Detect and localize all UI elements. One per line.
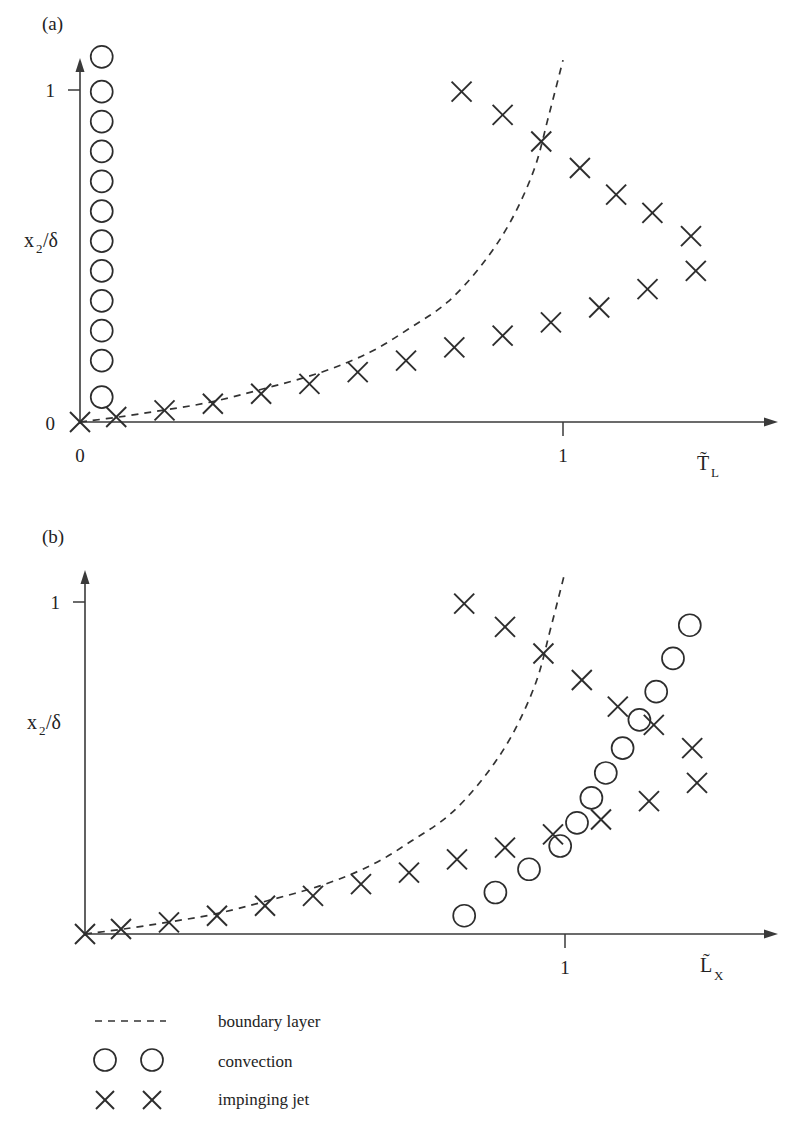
- data-point-cross: [207, 906, 227, 926]
- data-point-circle: [91, 46, 113, 68]
- legend-cross-icon-1: [96, 1091, 114, 1109]
- data-point-circle: [580, 787, 602, 809]
- panel-b-plot-area: [75, 572, 707, 944]
- legend-row-convection: convection: [94, 1049, 293, 1071]
- data-point-cross: [682, 738, 702, 758]
- data-point-cross: [642, 203, 662, 223]
- panel-b-y-axis-label-base: x: [27, 711, 37, 733]
- data-point-cross: [570, 158, 590, 178]
- data-point-cross: [396, 351, 416, 371]
- panel-b-convection-markers: [453, 614, 701, 927]
- panel-b-x-axis-label-base: L̃: [700, 953, 712, 976]
- panel-a-x-axis-label-sub: L: [711, 465, 719, 480]
- panel-a-y-axis-arrowhead: [76, 58, 85, 72]
- data-point-cross: [589, 297, 609, 317]
- legend-label-boundary-layer: boundary layer: [218, 1012, 321, 1031]
- panel-a-y-axis: 1 0 x 2 /δ: [24, 58, 85, 434]
- panel-b-y-tick-label-1: 1: [51, 592, 61, 613]
- panel-a-x-axis-arrowhead: [764, 418, 778, 427]
- panel-b-x-axis-label-sub: X: [714, 968, 724, 983]
- data-point-cross: [444, 337, 464, 357]
- data-point-circle: [612, 737, 634, 759]
- panel-a-y-tick-label-1: 1: [46, 80, 56, 101]
- data-point-circle: [484, 882, 506, 904]
- data-point-cross: [591, 809, 611, 829]
- data-point-circle: [549, 835, 571, 857]
- data-point-circle: [91, 111, 113, 133]
- data-point-cross: [638, 279, 658, 299]
- data-point-cross: [159, 912, 179, 932]
- legend: boundary layer convection impinging jet: [94, 1012, 321, 1109]
- panel-a: (a) 1 0 x 2 /δ 1 0: [24, 13, 778, 480]
- panel-a-convection-markers: [91, 46, 113, 408]
- data-point-circle: [566, 812, 588, 834]
- panel-a-x-axis-label-base: T̃: [697, 451, 709, 474]
- data-point-cross: [639, 791, 659, 811]
- figure-canvas: (a) 1 0 x 2 /δ 1 0: [0, 0, 794, 1129]
- panel-a-boundary-layer-curve: [80, 60, 563, 422]
- panel-b-x-axis: 1 L̃ X: [85, 930, 778, 984]
- panel-a-tag: (a): [42, 13, 63, 35]
- data-point-cross: [608, 697, 628, 717]
- data-point-cross: [251, 384, 271, 404]
- panel-a-y-axis-label: x 2 /δ: [24, 229, 58, 256]
- data-point-cross: [644, 715, 664, 735]
- legend-row-impinging-jet: impinging jet: [96, 1090, 309, 1109]
- legend-circle-icon-1: [94, 1049, 116, 1071]
- data-point-circle: [91, 230, 113, 252]
- data-point-cross: [572, 670, 592, 690]
- data-point-circle: [662, 647, 684, 669]
- data-point-circle: [91, 350, 113, 372]
- panel-b: (b) 1 x 2 /δ 1 L̃: [27, 526, 778, 983]
- data-point-cross: [541, 312, 561, 332]
- data-point-circle: [91, 140, 113, 162]
- panel-a-impinging-jet-lower-markers: [70, 261, 706, 432]
- panel-b-y-axis-label: x 2 /δ: [27, 711, 61, 738]
- data-point-cross: [203, 394, 223, 414]
- panel-b-boundary-layer-curve: [85, 572, 565, 934]
- panel-b-y-axis-label-sub: 2: [39, 723, 46, 738]
- panel-a-x-axis: 1 0 T̃ L: [75, 418, 778, 481]
- panel-b-x-axis-label: L̃ X: [700, 953, 724, 983]
- panel-b-tag: (b): [42, 526, 64, 548]
- panel-b-y-axis-label-tail: /δ: [46, 711, 61, 733]
- data-point-circle: [595, 762, 617, 784]
- panel-a-impinging-jet-upper-markers: [452, 82, 701, 246]
- panel-a-y-axis-label-tail: /δ: [43, 229, 58, 251]
- data-point-circle: [91, 320, 113, 342]
- data-point-cross: [454, 594, 474, 614]
- data-point-cross: [399, 863, 419, 883]
- data-point-cross: [606, 185, 626, 205]
- panel-b-x-tick-label-1: 1: [560, 957, 570, 978]
- data-point-cross: [495, 617, 515, 637]
- legend-circle-icon-2: [141, 1049, 163, 1071]
- data-point-cross: [303, 886, 323, 906]
- data-point-cross: [687, 773, 707, 793]
- legend-cross-icon-2: [143, 1091, 161, 1109]
- panel-b-impinging-jet-upper-markers: [454, 594, 702, 758]
- panel-a-x-tick-label-0: 0: [75, 445, 85, 466]
- data-point-cross: [351, 874, 371, 894]
- data-point-circle: [91, 386, 113, 408]
- data-point-circle: [91, 170, 113, 192]
- data-point-circle: [645, 681, 667, 703]
- panel-a-y-tick-label-0: 0: [46, 413, 56, 434]
- data-point-circle: [91, 260, 113, 282]
- data-point-cross: [493, 326, 513, 346]
- legend-label-impinging-jet: impinging jet: [218, 1090, 309, 1109]
- data-point-cross: [686, 261, 706, 281]
- data-point-cross: [255, 896, 275, 916]
- panel-b-y-axis-arrowhead: [81, 570, 90, 584]
- legend-row-boundary-layer: boundary layer: [95, 1012, 321, 1031]
- data-point-circle: [91, 200, 113, 222]
- panel-a-y-axis-label-sub: 2: [36, 241, 43, 256]
- legend-label-convection: convection: [218, 1052, 293, 1071]
- data-point-circle: [679, 614, 701, 636]
- panel-a-x-tick-label-1: 1: [558, 445, 568, 466]
- data-point-cross: [533, 643, 553, 663]
- data-point-cross: [681, 226, 701, 246]
- panel-a-plot-area: [70, 46, 706, 432]
- data-point-cross: [447, 849, 467, 869]
- panel-b-x-axis-arrowhead: [764, 930, 778, 939]
- data-point-cross: [495, 838, 515, 858]
